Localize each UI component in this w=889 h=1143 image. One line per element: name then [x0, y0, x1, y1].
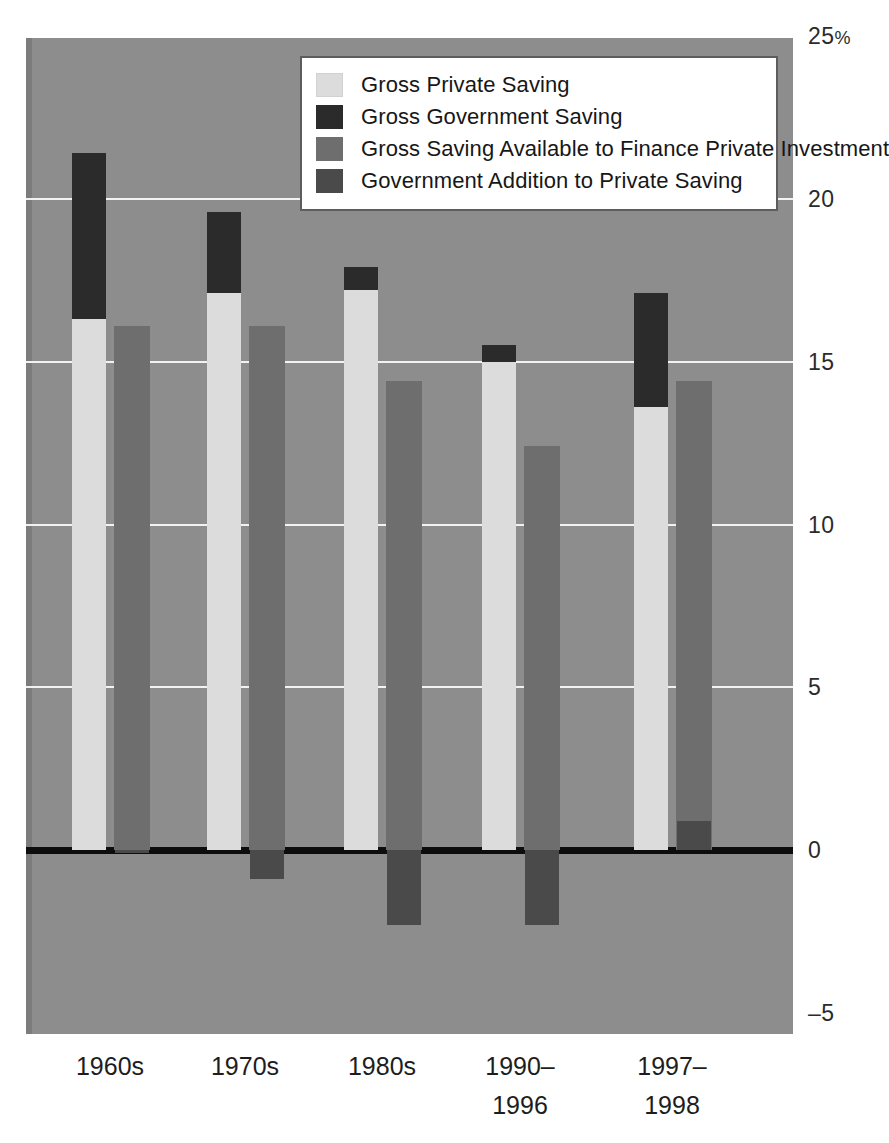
y-axis-tick-labels: 25%20151050–5 — [800, 0, 887, 1143]
x-axis-category-labels: 1960s1970s1980s1990– 19961997– 1998 — [0, 1047, 800, 1143]
bar-gross-private-saving-1980s — [344, 290, 378, 850]
legend-swatch-gross-government-saving — [316, 105, 343, 129]
legend-swatch-government-addition — [316, 169, 343, 193]
x-category-label-1970s: 1970s — [211, 1047, 279, 1086]
y-tick-label-0: 0 — [808, 837, 821, 864]
x-category-label-1960s: 1960s — [76, 1047, 144, 1086]
bar-gross-private-saving-1997-1998 — [634, 407, 668, 850]
legend-item: Gross Government Saving — [316, 101, 762, 133]
chart-legend: Gross Private Saving Gross Government Sa… — [300, 56, 778, 211]
bar-gross-saving-available-1990-1996 — [524, 446, 560, 850]
bar-government-addition-1970s — [250, 850, 284, 879]
y-tick-label-neg5: –5 — [808, 999, 835, 1026]
x-category-label-1990-1996: 1990– 1996 — [485, 1047, 555, 1125]
legend-item: Government Addition to Private Saving — [316, 165, 762, 197]
bar-gross-saving-available-1997-1998 — [676, 381, 712, 850]
y-tick-label-5: 5 — [808, 674, 821, 701]
legend-label-gross-saving-available: Gross Saving Available to Finance Privat… — [361, 136, 889, 162]
y-tick-label-20: 20 — [808, 186, 835, 213]
legend-label-gross-private-saving: Gross Private Saving — [361, 72, 570, 98]
bar-gross-government-saving-1970s — [207, 212, 241, 293]
bar-gross-private-saving-1990-1996 — [482, 362, 516, 850]
bar-gross-saving-available-1980s — [386, 381, 422, 850]
legend-swatch-gross-saving-available — [316, 137, 343, 161]
bar-gross-government-saving-1980s — [344, 267, 378, 290]
bar-government-addition-1960s — [115, 850, 149, 853]
bar-gross-private-saving-1970s — [207, 293, 241, 850]
x-category-label-1980s: 1980s — [348, 1047, 416, 1086]
legend-swatch-gross-private-saving — [316, 73, 343, 97]
bar-gross-government-saving-1997-1998 — [634, 293, 668, 407]
legend-item: Gross Private Saving — [316, 69, 762, 101]
bar-gross-saving-available-1960s — [114, 326, 150, 850]
y-tick-label-10: 10 — [808, 511, 835, 538]
y-tick-label-25: 25% — [808, 23, 851, 50]
bar-gross-private-saving-1960s — [72, 319, 106, 850]
legend-label-gross-government-saving: Gross Government Saving — [361, 104, 623, 130]
bar-government-addition-1997-1998 — [677, 821, 711, 850]
legend-label-government-addition: Government Addition to Private Saving — [361, 168, 743, 194]
bar-gross-government-saving-1990-1996 — [482, 345, 516, 361]
bar-gross-government-saving-1960s — [72, 153, 106, 319]
x-category-label-1997-1998: 1997– 1998 — [637, 1047, 707, 1125]
bar-gross-saving-available-1970s — [249, 326, 285, 850]
bar-government-addition-1990-1996 — [525, 850, 559, 925]
y-tick-label-15: 15 — [808, 348, 835, 375]
plot-left-edge — [26, 38, 32, 1034]
legend-item: Gross Saving Available to Finance Privat… — [316, 133, 762, 165]
bar-government-addition-1980s — [387, 850, 421, 925]
